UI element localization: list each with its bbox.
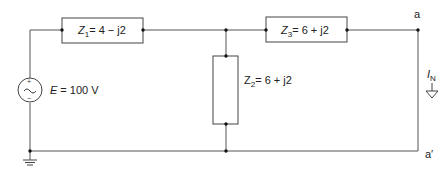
svg-text:+: + [27,78,31,85]
impedance-z3: Z3= 6 + j2 [266,17,347,42]
svg-text:−: − [27,95,31,102]
ground-icon [23,160,37,165]
impedance-z2: Z2= 6 + j2 [213,56,292,124]
impedance-z1: Z1= 4 − j2 [62,18,143,43]
circuit-diagram: Z1= 4 − j2 Z3= 6 + j2 Z2= 6 + j2 + − E= … [0,0,448,184]
terminal-a-label: a [414,8,421,20]
arrow-down-icon [426,91,438,98]
source-label: E= 100 V [50,84,99,96]
norton-current-indicator: IN [426,68,438,98]
z2-label: Z2= 6 + j2 [244,74,292,89]
terminal-a-prime-label: a′ [425,148,433,160]
ac-voltage-source: + − E= 100 V [18,78,99,102]
svg-text:IN: IN [427,68,436,83]
